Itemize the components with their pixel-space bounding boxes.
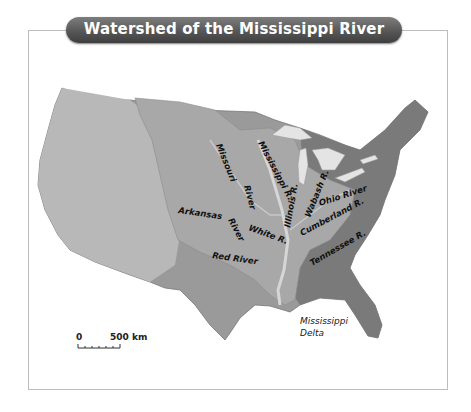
us-map: Missouri River Mississippi R. Illinois R… bbox=[0, 0, 471, 412]
scale-start: 0 bbox=[76, 332, 82, 342]
scale-bar: 0 500 km bbox=[76, 332, 147, 348]
label-delta-1: Mississippi bbox=[300, 316, 348, 326]
scale-end: 500 km bbox=[110, 332, 147, 342]
label-delta-2: Delta bbox=[300, 328, 324, 338]
title-banner: Watershed of the Mississippi River bbox=[66, 17, 402, 43]
map-title: Watershed of the Mississippi River bbox=[66, 20, 402, 38]
